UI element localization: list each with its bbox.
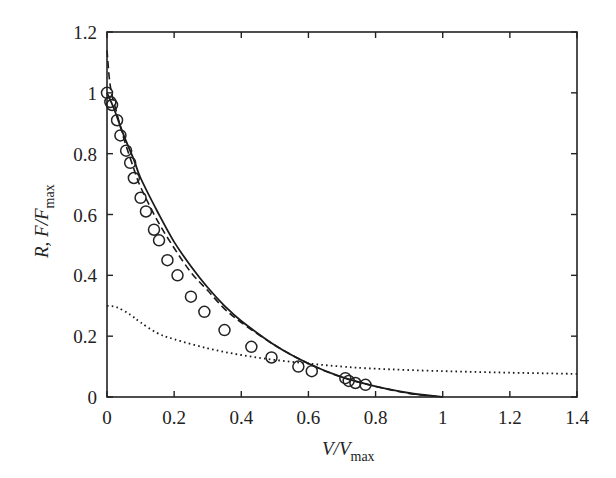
- y-tick-label: 0.2: [73, 326, 97, 347]
- data-point: [219, 325, 230, 336]
- x-tick-label: 0.6: [297, 407, 321, 428]
- data-point: [162, 255, 173, 266]
- data-point: [172, 270, 183, 281]
- data-point: [154, 235, 165, 246]
- y-tick-label: 0.6: [73, 205, 97, 226]
- r-curve-dotted: [107, 306, 577, 374]
- data-point: [149, 224, 160, 235]
- data-point: [306, 366, 317, 377]
- series-layer: [102, 50, 578, 397]
- y-tick-label: 0.8: [73, 144, 97, 165]
- data-point: [246, 341, 257, 352]
- x-tick-label: 0: [102, 407, 112, 428]
- data-points: [102, 87, 372, 390]
- data-point: [185, 291, 196, 302]
- data-point: [140, 206, 151, 217]
- x-tick-label: 1.2: [498, 407, 522, 428]
- x-tick-label: 1: [438, 407, 448, 428]
- data-point: [266, 352, 277, 363]
- plot-frame: [107, 32, 577, 397]
- y-axis-label: R, F/Fmax: [31, 184, 57, 259]
- x-tick-label: 0.2: [162, 407, 186, 428]
- x-tick-label: 0.8: [364, 407, 388, 428]
- data-point: [135, 192, 146, 203]
- y-tick-label: 1.2: [73, 22, 97, 43]
- x-tick-label: 0.4: [229, 407, 253, 428]
- x-axis-label: V/Vmax: [322, 438, 375, 464]
- y-tick-label: 1: [88, 83, 98, 104]
- y-tick-label: 0.4: [73, 265, 97, 286]
- x-tick-label: 1.4: [565, 407, 589, 428]
- data-point: [199, 306, 210, 317]
- chart: 00.20.40.60.811.21.400.20.40.60.811.2 V/…: [0, 0, 616, 478]
- y-tick-label: 0: [88, 387, 98, 408]
